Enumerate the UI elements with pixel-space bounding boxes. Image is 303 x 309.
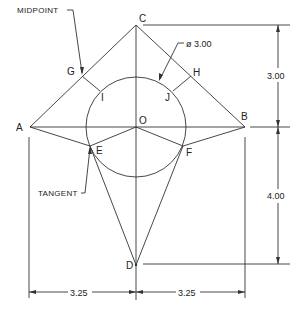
dim-left-horizontal: 3.25 — [70, 288, 88, 298]
arrow-midpoint — [80, 67, 84, 75]
leader-tangent — [81, 148, 90, 193]
line-ae — [30, 127, 90, 146]
line-oe — [90, 127, 136, 146]
label-a: A — [16, 122, 23, 133]
label-e: E — [96, 145, 103, 156]
arrow-dim-bottom — [276, 257, 280, 264]
leader-diameter — [160, 43, 184, 79]
line-fd — [136, 146, 183, 265]
dim-right-horizontal: 3.25 — [178, 288, 196, 298]
arrow-dim-right — [238, 290, 245, 294]
construction-drawing: A B C D E F G H I J O MIDPOINT TANGENT ø… — [0, 0, 303, 309]
arrow-dim-b-down — [276, 127, 280, 134]
line-ac — [30, 25, 136, 127]
label-h: H — [193, 67, 200, 78]
label-b: B — [241, 111, 248, 122]
arrow-dim-mid-left — [129, 290, 136, 294]
line-bf — [183, 127, 245, 146]
arrow-dim-left — [29, 290, 36, 294]
label-d: D — [126, 260, 133, 271]
point-d-dot — [135, 264, 137, 266]
label-o: O — [139, 115, 147, 126]
arrow-dim-b-up — [276, 120, 280, 127]
label-c: C — [139, 13, 146, 24]
arrow-dim-mid-right — [136, 290, 143, 294]
dim-lower-vertical: 4.00 — [267, 191, 285, 201]
annotation-midpoint: MIDPOINT — [17, 6, 59, 15]
line-hj — [173, 76, 191, 91]
annotation-diameter: ø 3.00 — [186, 39, 212, 49]
leader-midpoint — [67, 10, 82, 73]
label-g: G — [67, 66, 75, 77]
label-i: I — [101, 92, 104, 103]
line-ed — [90, 146, 136, 265]
line-gi — [82, 76, 100, 91]
annotation-tangent: TANGENT — [38, 189, 78, 198]
dim-upper-vertical: 3.00 — [267, 71, 285, 81]
line-of — [136, 127, 183, 146]
label-j: J — [165, 92, 170, 103]
arrow-dim-top — [276, 25, 280, 32]
label-f: F — [186, 147, 192, 158]
